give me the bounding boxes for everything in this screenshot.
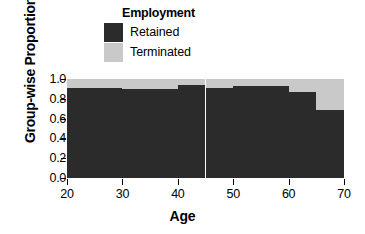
chart-legend: Employment Retained Terminated bbox=[104, 6, 274, 62]
x-axis-tick-mark bbox=[289, 179, 290, 185]
plot-panel bbox=[67, 79, 344, 178]
y-axis-tick-label: 0.6 bbox=[6, 113, 66, 126]
y-axis-tick-label: 0.4 bbox=[6, 132, 66, 145]
bar-segment-retained bbox=[206, 88, 234, 178]
x-axis-tick-mark bbox=[233, 179, 234, 185]
legend-label-retained: Retained bbox=[130, 25, 179, 39]
bar-segment-retained bbox=[261, 86, 289, 178]
bar-segment-retained bbox=[316, 110, 344, 178]
y-axis-tick-mark bbox=[61, 79, 66, 80]
bar-segment-retained bbox=[150, 89, 178, 178]
y-axis-tick-mark bbox=[61, 99, 66, 100]
x-axis-tick-label: 70 bbox=[324, 187, 364, 201]
bar-segment-retained bbox=[67, 88, 95, 178]
y-axis-tick-label: 1.0 bbox=[6, 73, 66, 86]
bar-segment-retained bbox=[289, 92, 317, 178]
x-axis-title: Age bbox=[0, 208, 365, 224]
x-axis-tick-mark bbox=[178, 179, 179, 185]
legend-item-terminated: Terminated bbox=[104, 42, 191, 62]
legend-key-terminated bbox=[104, 43, 123, 62]
x-axis-tick-label: 30 bbox=[102, 187, 142, 201]
x-axis-tick-label: 50 bbox=[213, 187, 253, 201]
x-axis-tick-mark bbox=[122, 179, 123, 185]
y-axis-tick-label: 0.2 bbox=[6, 152, 66, 165]
legend-label-terminated: Terminated bbox=[130, 45, 191, 59]
x-axis-tick-label: 20 bbox=[47, 187, 87, 201]
y-axis-tick-label: 0.0 bbox=[6, 172, 66, 185]
bar-segment-retained bbox=[178, 85, 206, 178]
y-axis-tick-mark bbox=[61, 119, 66, 120]
y-axis-tick-label: 0.8 bbox=[6, 93, 66, 106]
bar-segment-retained bbox=[233, 86, 261, 178]
legend-item-retained: Retained bbox=[104, 22, 179, 42]
bar-segment-retained bbox=[122, 89, 150, 178]
legend-title: Employment bbox=[122, 6, 195, 20]
x-axis-tick-label: 60 bbox=[269, 187, 309, 201]
y-axis-tick-mark bbox=[61, 158, 66, 159]
y-axis-tick-mark bbox=[61, 138, 66, 139]
bar-segment-retained bbox=[95, 88, 123, 178]
chart-figure: Employment Retained Terminated Group-wis… bbox=[0, 0, 365, 234]
x-axis-tick-mark bbox=[67, 179, 68, 185]
x-axis-tick-mark bbox=[344, 179, 345, 185]
legend-key-retained bbox=[104, 23, 123, 42]
x-axis-tick-label: 40 bbox=[158, 187, 198, 201]
y-axis-tick-mark bbox=[61, 178, 66, 179]
